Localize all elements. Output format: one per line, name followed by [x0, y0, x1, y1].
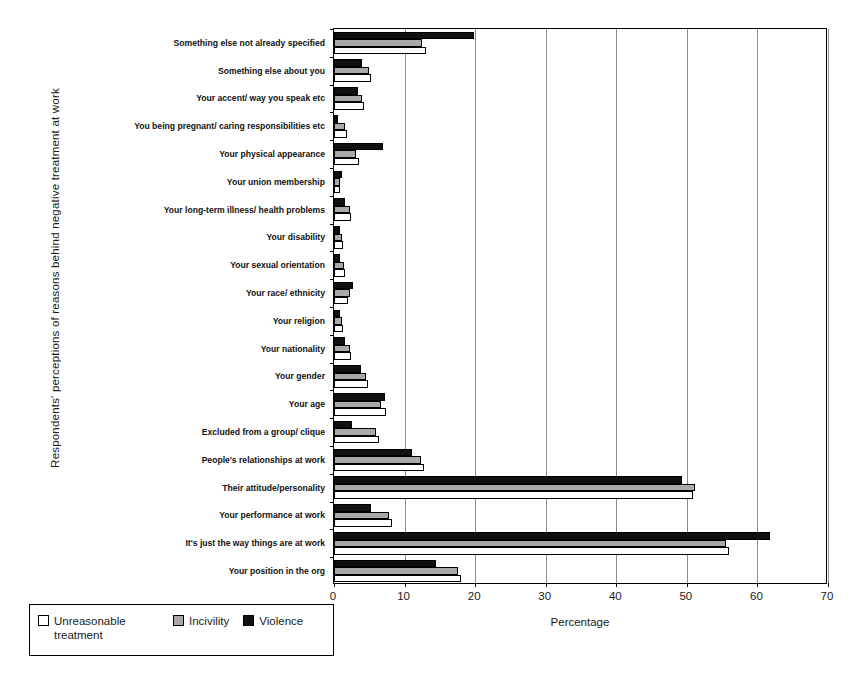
category-label: Excluded from a group/ clique — [202, 428, 325, 437]
x-tick-label-70: 70 — [821, 590, 834, 602]
bar-unreasonable — [334, 297, 348, 305]
bar-violence — [334, 254, 340, 262]
bar-group: Your race/ ethnicity — [334, 279, 826, 307]
bar-group: It's just the way things are at work — [334, 529, 826, 557]
x-tick-label-30: 30 — [538, 590, 551, 602]
bar-group: Your accent/ way you speak etc — [334, 85, 826, 113]
bars — [334, 390, 826, 418]
bar-group: Your religion — [334, 307, 826, 335]
bar-unreasonable — [334, 519, 392, 527]
bar-incivility — [334, 345, 350, 353]
bars — [334, 335, 826, 363]
legend-item-incivility: Incivility — [173, 614, 229, 628]
bar-unreasonable — [334, 102, 364, 110]
bar-violence — [334, 560, 436, 568]
bars — [334, 363, 826, 391]
bars — [334, 251, 826, 279]
bar-group: Your physical appearance — [334, 140, 826, 168]
bars — [334, 57, 826, 85]
bars — [334, 140, 826, 168]
bar-incivility — [334, 178, 340, 186]
bars — [334, 224, 826, 252]
bar-violence — [334, 532, 770, 540]
bar-unreasonable — [334, 325, 343, 333]
bars — [334, 446, 826, 474]
chart-legend: Unreasonable treatmentIncivilityViolence — [29, 604, 334, 656]
bar-incivility — [334, 206, 350, 214]
bars — [334, 29, 826, 57]
category-label: Your sexual orientation — [230, 261, 325, 270]
bar-group: Your sexual orientation — [334, 251, 826, 279]
legend-label: Violence — [259, 614, 303, 628]
bar-unreasonable — [334, 408, 386, 416]
bar-group: Something else not already specified — [334, 29, 826, 57]
bar-unreasonable — [334, 47, 426, 55]
category-label: You being pregnant/ caring responsibilit… — [134, 122, 325, 131]
category-label: Your disability — [266, 233, 325, 242]
legend-label: Unreasonable treatment — [54, 614, 159, 643]
bar-unreasonable — [334, 74, 371, 82]
bar-group: Your position in the org — [334, 557, 826, 585]
bar-incivility — [334, 262, 344, 270]
bar-violence — [334, 171, 342, 179]
category-label: Your position in the org — [229, 567, 325, 576]
legend-item-violence: Violence — [243, 614, 303, 628]
bars — [334, 557, 826, 585]
bar-incivility — [334, 512, 389, 520]
category-label: Your age — [289, 400, 325, 409]
bar-incivility — [334, 484, 695, 492]
gridline-70 — [828, 29, 829, 583]
bar-incivility — [334, 67, 369, 75]
category-label: Something else about you — [218, 67, 325, 76]
bar-unreasonable — [334, 380, 368, 388]
bar-incivility — [334, 401, 381, 409]
bar-violence — [334, 476, 682, 484]
bar-group: Your performance at work — [334, 502, 826, 530]
bar-incivility — [334, 95, 362, 103]
bar-violence — [334, 310, 340, 318]
bar-unreasonable — [334, 241, 343, 249]
category-label: Your long-term illness/ health problems — [164, 206, 325, 215]
bars — [334, 168, 826, 196]
bar-incivility — [334, 567, 458, 575]
x-tick-label-60: 60 — [750, 590, 763, 602]
bar-incivility — [334, 150, 356, 158]
category-label: Your religion — [273, 317, 325, 326]
x-axis-title: Percentage — [333, 616, 827, 628]
bar-unreasonable — [334, 186, 340, 194]
bar-unreasonable — [334, 269, 345, 277]
bar-group: Your age — [334, 390, 826, 418]
category-label: Your race/ ethnicity — [246, 289, 325, 298]
bar-group: Your union membership — [334, 168, 826, 196]
bar-unreasonable — [334, 547, 729, 555]
bar-violence — [334, 393, 385, 401]
bar-violence — [334, 421, 352, 429]
bar-group: People's relationships at work — [334, 446, 826, 474]
bar-group: Excluded from a group/ clique — [334, 418, 826, 446]
bar-group: Your gender — [334, 363, 826, 391]
bar-incivility — [334, 456, 421, 464]
bar-violence — [334, 282, 353, 290]
x-tickmark-70 — [828, 583, 829, 587]
bar-group: Your nationality — [334, 335, 826, 363]
bars — [334, 418, 826, 446]
category-label: It's just the way things are at work — [185, 539, 325, 548]
bar-unreasonable — [334, 436, 379, 444]
plot-area: Something else not already specifiedSome… — [333, 28, 827, 584]
y-axis-title: Respondents' perceptions of reasons behi… — [49, 0, 61, 558]
bar-group: Your disability — [334, 224, 826, 252]
bar-group: Their attitude/personality — [334, 474, 826, 502]
bars — [334, 112, 826, 140]
x-tick-label-20: 20 — [468, 590, 481, 602]
category-label: Something else not already specified — [174, 39, 325, 48]
bar-violence — [334, 449, 412, 457]
bars — [334, 279, 826, 307]
bar-violence — [334, 504, 371, 512]
bar-violence — [334, 87, 358, 95]
bar-unreasonable — [334, 575, 461, 583]
bar-incivility — [334, 428, 376, 436]
bar-incivility — [334, 289, 350, 297]
category-label: Their attitude/personality — [222, 484, 325, 493]
category-label: Your union membership — [227, 178, 325, 187]
category-label: People's relationships at work — [202, 456, 325, 465]
